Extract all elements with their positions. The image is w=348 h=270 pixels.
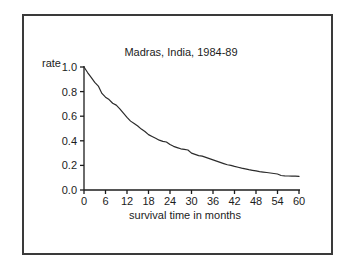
x-axis-tick-label: 12 [121, 195, 133, 207]
survival-curve-chart: Madras, India, 1984-89 rate survival tim… [0, 0, 348, 270]
y-axis-tick-label: 0.4 [62, 135, 77, 147]
x-axis-label: survival time in months [129, 209, 241, 221]
y-axis-tick-label: 0.6 [62, 110, 77, 122]
x-axis-tick-label: 36 [207, 195, 219, 207]
data-series-group [84, 67, 299, 176]
survival-curve-line [84, 67, 299, 176]
y-axis-tick-label: 0.8 [62, 86, 77, 98]
y-axis-label: rate [42, 57, 61, 69]
x-axis-tick-label: 42 [228, 195, 240, 207]
x-axis-tick-label: 0 [81, 195, 87, 207]
x-axis-tick-label: 6 [102, 195, 108, 207]
y-axis-tick-label: 0.2 [62, 159, 77, 171]
chart-title: Madras, India, 1984-89 [124, 46, 237, 58]
x-axis-tick-label: 30 [185, 195, 197, 207]
x-axis-tick-label: 48 [250, 195, 262, 207]
x-axis-tick-label: 18 [142, 195, 154, 207]
y-axis: 0.00.20.40.60.81.0 [62, 61, 84, 196]
x-axis-tick-label: 24 [164, 195, 176, 207]
x-axis-tick-label: 60 [293, 195, 305, 207]
x-axis-tick-label: 54 [271, 195, 283, 207]
y-axis-tick-label: 0.0 [62, 184, 77, 196]
x-axis: 06121824303642485460 [81, 190, 305, 207]
figure-root: Madras, India, 1984-89 rate survival tim… [0, 0, 348, 270]
y-axis-tick-label: 1.0 [62, 61, 77, 73]
